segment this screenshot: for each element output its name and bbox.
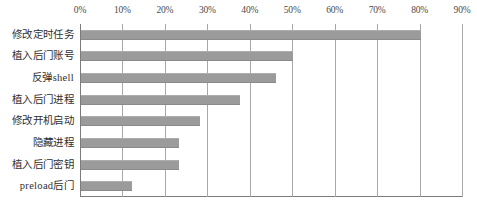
category-label: preload后门 [0,180,74,191]
category-label: 隐藏进程 [0,137,74,148]
x-tick-label: 50% [284,5,301,15]
bar [81,160,179,170]
gridline-80% [420,24,421,197]
x-tick-label: 0% [74,5,86,15]
x-tick-label: 80% [411,5,428,15]
x-tick-label: 70% [369,5,386,15]
gridline-70% [377,24,378,197]
bar [81,138,179,148]
category-label: 修改定时任务 [0,29,74,40]
gridline-30% [207,24,208,197]
bar [81,116,200,126]
x-tick-label: 10% [114,5,131,15]
bar [81,73,276,83]
category-label: 反弹shell [0,72,74,83]
category-label: 修改开机启动 [0,115,74,126]
x-tick-label: 40% [241,5,258,15]
bar [81,51,293,61]
category-label: 植入后门密钥 [0,159,74,170]
x-tick-label: 60% [326,5,343,15]
bar [81,181,132,191]
gridline-60% [335,24,336,197]
category-label: 植入后门账号 [0,50,74,61]
x-tick-label: 20% [156,5,173,15]
x-tick-label: 90% [454,5,471,15]
bar-chart-figure: 0%10%20%30%40%50%60%70%80%90% 修改定时任务植入后门… [0,0,477,214]
category-label: 植入后门进程 [0,94,74,105]
gridline-90% [462,24,463,197]
bar [81,95,240,105]
gridline-10% [122,24,123,197]
x-tick-label: 30% [199,5,216,15]
figure-caption [0,208,477,214]
x-axis-line [80,196,462,197]
plot-area [80,24,462,197]
y-axis-line [80,24,81,197]
gridline-50% [292,24,293,197]
gridline-40% [250,24,251,197]
bar [81,30,421,40]
gridline-20% [165,24,166,197]
